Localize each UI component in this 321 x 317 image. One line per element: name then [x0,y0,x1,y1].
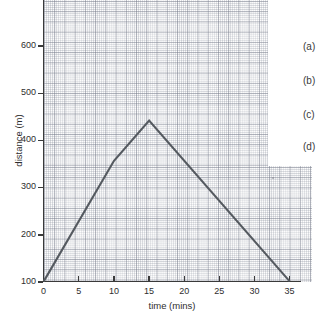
distance-time-graph-figure: 600 500 400 300 200 100 0 5 10 15 20 25 … [0,0,321,317]
distance-time-line [44,121,290,282]
option-label-b[interactable]: (b) [303,76,321,86]
option-label-d[interactable]: (d) [303,142,321,152]
plot-area [0,0,321,317]
option-label-a[interactable]: (a) [303,42,321,52]
option-label-c[interactable]: (c) [303,110,321,120]
